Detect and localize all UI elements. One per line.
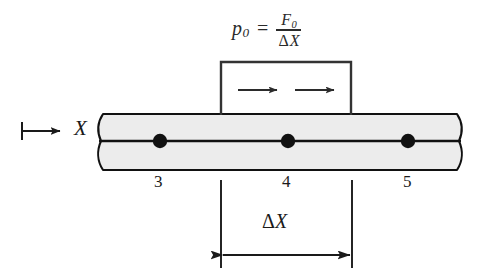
load-box-outline: [221, 62, 351, 115]
formula-numerator: F0: [279, 11, 299, 28]
node-dot-3: [153, 134, 167, 148]
formula-numerator-subscript: 0: [291, 19, 296, 30]
dimension-label-symbol: X: [275, 210, 287, 232]
pressure-formula: p0 = F0 ΔX: [232, 10, 301, 48]
axis-marker-group: [22, 122, 60, 140]
formula-denominator-delta: Δ: [278, 32, 288, 49]
formula-fraction-bar: [276, 29, 301, 30]
dimension-label: ΔX: [262, 211, 287, 231]
formula-lhs-symbol: p: [232, 17, 242, 40]
axis-label-x: X: [74, 118, 87, 139]
node-label-5: 5: [403, 173, 412, 190]
formula-numerator-symbol: F: [281, 11, 291, 28]
dimension-label-delta: Δ: [262, 210, 275, 232]
formula-lhs-subscript: 0: [243, 25, 250, 41]
node-dot-5: [401, 134, 415, 148]
formula-fraction: F0 ΔX: [276, 11, 301, 49]
load-box-group: [221, 62, 351, 115]
mechanics-diagram: p0 = F0 ΔX X 3 4 5 ΔX: [0, 0, 491, 279]
formula-equals-sign: =: [257, 17, 268, 40]
formula-denominator: ΔX: [276, 32, 301, 49]
node-label-4: 4: [282, 173, 291, 190]
node-label-3: 3: [154, 173, 163, 190]
node-dot-4: [281, 134, 295, 148]
formula-denominator-symbol: X: [290, 32, 300, 49]
